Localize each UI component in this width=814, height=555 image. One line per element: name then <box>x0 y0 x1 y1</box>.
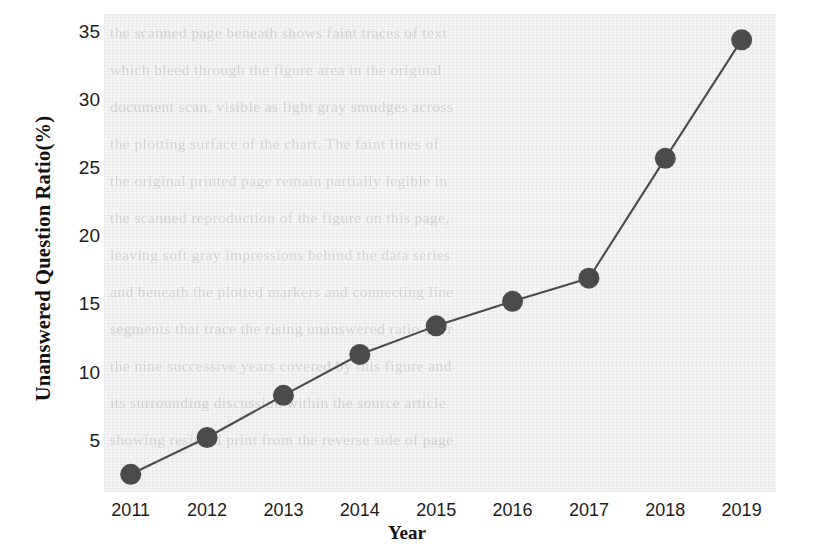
y-axis-title: Unanswered Question Ratio(%) <box>32 24 55 494</box>
data-point-marker <box>197 427 218 448</box>
data-point-marker <box>578 268 599 289</box>
data-point-marker <box>731 29 752 50</box>
chart-figure: the scanned page beneath shows faint tra… <box>0 0 814 555</box>
data-point-marker <box>502 291 523 312</box>
data-point-marker <box>120 464 141 485</box>
data-point-marker <box>349 344 370 365</box>
data-point-marker <box>426 315 447 336</box>
series-line <box>131 40 742 474</box>
data-point-marker <box>655 148 676 169</box>
data-point-marker <box>273 385 294 406</box>
series-markers <box>120 29 752 484</box>
x-axis-title: Year <box>0 522 814 544</box>
data-series-layer <box>0 0 814 555</box>
